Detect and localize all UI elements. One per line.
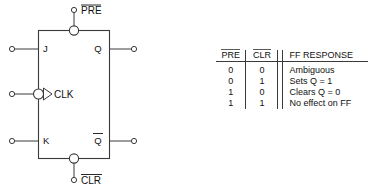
cell-clr: 1 <box>246 98 278 109</box>
header-response: FF RESPONSE <box>283 50 368 62</box>
clear-label: CLR <box>81 175 101 186</box>
cell-clr: 0 <box>246 87 278 98</box>
k-terminal[interactable] <box>9 138 14 143</box>
q-label: Q <box>94 43 101 54</box>
cell-response: No effect on FF <box>283 98 368 109</box>
preset-label: PRE <box>81 5 102 16</box>
preset-inversion-bubble <box>69 26 78 35</box>
cell-response: Sets Q = 1 <box>283 76 368 87</box>
q-terminal[interactable] <box>131 46 136 51</box>
ff-response-table-container: PRE CLR FF RESPONSE 0 0 Ambiguous 0 1 Se… <box>216 50 368 109</box>
cell-pre: 0 <box>216 76 246 87</box>
header-clr: CLR <box>246 50 278 62</box>
j-label: J <box>43 43 48 54</box>
clk-edge-triangle <box>44 88 53 100</box>
clear-inversion-bubble <box>69 154 78 163</box>
flip-flop-svg: PRE J Q CLK K Q CLR <box>0 0 200 195</box>
clk-inversion-bubble <box>34 89 44 99</box>
table-body: 0 0 Ambiguous 0 1 Sets Q = 1 1 0 Clears … <box>216 62 368 110</box>
table-row: 0 1 Sets Q = 1 <box>216 76 368 87</box>
qbar-label: Q <box>94 135 101 146</box>
clk-terminal[interactable] <box>9 91 14 96</box>
cell-response: Clears Q = 0 <box>283 87 368 98</box>
k-label: K <box>43 135 50 146</box>
table-row: 1 1 No effect on FF <box>216 98 368 109</box>
header-clr-text: CLR <box>253 50 271 61</box>
cell-pre: 0 <box>216 62 246 77</box>
clk-label: CLK <box>54 89 74 100</box>
qbar-terminal[interactable] <box>131 138 136 143</box>
cell-clr: 0 <box>246 62 278 77</box>
table-row: 1 0 Clears Q = 0 <box>216 87 368 98</box>
table-header-row: PRE CLR FF RESPONSE <box>216 50 368 62</box>
table-row: 0 0 Ambiguous <box>216 62 368 77</box>
cell-response: Ambiguous <box>283 62 368 77</box>
cell-clr: 1 <box>246 76 278 87</box>
preset-terminal[interactable] <box>71 7 76 12</box>
clear-terminal[interactable] <box>71 177 76 182</box>
flip-flop-diagram: PRE J Q CLK K Q CLR <box>0 0 200 195</box>
header-pre: PRE <box>216 50 246 62</box>
ff-response-table: PRE CLR FF RESPONSE 0 0 Ambiguous 0 1 Se… <box>216 50 368 109</box>
cell-pre: 1 <box>216 87 246 98</box>
header-pre-text: PRE <box>221 50 240 61</box>
cell-pre: 1 <box>216 98 246 109</box>
table-head: PRE CLR FF RESPONSE <box>216 50 368 62</box>
j-terminal[interactable] <box>9 46 14 51</box>
